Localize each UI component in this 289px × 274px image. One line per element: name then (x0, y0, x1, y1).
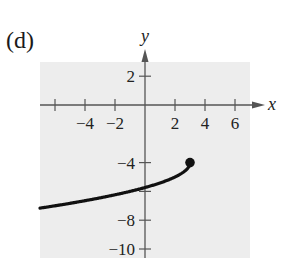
y-axis-arrow-icon (142, 49, 149, 62)
function-graph: −4−22462−4−8−10xy (0, 0, 289, 274)
x-tick-label: −4 (76, 114, 95, 133)
y-axis-label: y (139, 26, 149, 46)
x-axis-label: x (267, 94, 276, 114)
x-tick-label: −2 (106, 114, 124, 133)
closed-endpoint-dot (185, 158, 195, 168)
y-tick-label: 2 (127, 67, 136, 86)
x-tick-label: 4 (201, 114, 210, 133)
y-tick-label: −8 (117, 211, 135, 230)
y-tick-label: −10 (108, 240, 135, 259)
x-tick-label: 6 (231, 114, 240, 133)
x-tick-label: 2 (171, 114, 180, 133)
x-axis-arrow-icon (252, 102, 265, 109)
y-tick-label: −4 (117, 154, 136, 173)
